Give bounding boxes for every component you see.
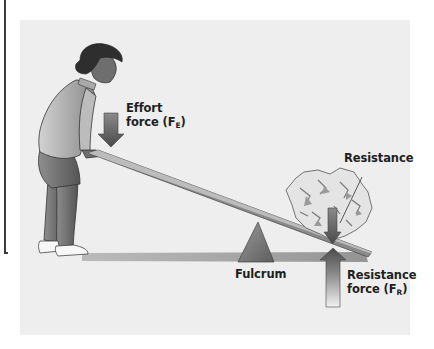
fulcrum-label: Fulcrum [235,267,286,281]
resistance-force-label-line1: Resistance [347,268,416,282]
resistance-force-label: Resistance force (FR) [347,268,416,300]
person-front-shoe [55,245,88,256]
effort-force-arrow [98,113,124,147]
fulcrum-triangle [238,222,274,262]
effort-force-label: Effort force (FE) [126,101,186,133]
effort-label-line2: force (FE) [126,115,186,133]
person-figure [39,44,123,256]
resistance-force-label-line2: force (FR) [347,282,416,300]
resistance-force-arrow [320,248,346,307]
resistance-label: Resistance [344,151,413,165]
effort-label-line1: Effort [126,101,186,115]
